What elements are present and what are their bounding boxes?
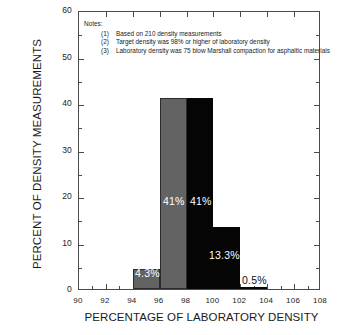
tick-x-top-94 — [133, 12, 134, 17]
tick-y-left-50 — [79, 59, 84, 60]
y-tick-label-60: 60 — [46, 5, 72, 15]
tick-y-left-40 — [79, 105, 84, 106]
tick-y-right-20 — [314, 198, 319, 199]
bar-label-98-100: 41% — [190, 195, 212, 207]
tick-y-left-minor-25 — [79, 175, 82, 176]
tick-y-left-30 — [79, 152, 84, 153]
x-tick-label-106: 106 — [278, 296, 308, 305]
tick-y-right-40 — [314, 105, 319, 106]
note-number-1: (1) — [101, 30, 116, 39]
x-tick-label-104: 104 — [251, 296, 281, 305]
y-tick-label-10: 10 — [46, 238, 72, 248]
y-tick-label-0: 0 — [46, 284, 72, 294]
tick-y-left-20 — [79, 198, 84, 199]
tick-x-bottom-104 — [267, 284, 268, 289]
note-text-1: Based on 210 density measurements — [116, 30, 222, 37]
tick-y-right-minor-15 — [316, 221, 319, 222]
x-tick-label-96: 96 — [144, 296, 174, 305]
bar-102-104 — [240, 287, 267, 289]
note-text-3: Laboratory density was 75 blow Marshall … — [116, 47, 330, 54]
bar-label-96-98: 41% — [163, 195, 185, 207]
tick-x-top-98 — [187, 12, 188, 17]
tick-y-right-50 — [314, 59, 319, 60]
x-tick-label-102: 102 — [224, 296, 254, 305]
note-text-2: Target density was 98% or higher of labo… — [116, 38, 270, 45]
y-tick-label-20: 20 — [46, 191, 72, 201]
tick-y-left-minor-5 — [79, 268, 82, 269]
y-axis-title: PERCENT OF DENSITY MEASUREMENTS — [31, 14, 43, 294]
note-item-1: (1)Based on 210 density measurements — [84, 30, 330, 39]
tick-y-left-minor-35 — [79, 128, 82, 129]
x-axis-title: PERCENTAGE OF LABORATORY DENSITY — [60, 311, 343, 323]
x-tick-label-90: 90 — [63, 296, 93, 305]
tick-y-right-minor-25 — [316, 175, 319, 176]
tick-y-left-minor-15 — [79, 221, 82, 222]
note-number-2: (2) — [101, 38, 116, 47]
x-tick-label-108: 108 — [305, 296, 335, 305]
tick-y-left-minor-55 — [79, 35, 82, 36]
tick-x-bottom-minor-107 — [308, 286, 309, 289]
bar-label-94-96: 4.3% — [135, 267, 160, 279]
note-item-2: (2)Target density was 98% or higher of l… — [84, 38, 330, 47]
histogram-figure: PERCENT OF DENSITY MEASUREMENTS 0 10 20 … — [0, 0, 343, 335]
tick-x-bottom-minor-93 — [119, 286, 120, 289]
tick-y-right-30 — [314, 152, 319, 153]
tick-x-bottom-minor-91 — [92, 286, 93, 289]
x-tick-label-92: 92 — [90, 296, 120, 305]
y-tick-label-50: 50 — [46, 52, 72, 62]
x-tick-label-94: 94 — [117, 296, 147, 305]
x-tick-label-100: 100 — [197, 296, 227, 305]
bar-label-102-104: 0.5% — [242, 274, 267, 286]
tick-y-right-minor-35 — [316, 128, 319, 129]
tick-x-top-102 — [240, 12, 241, 17]
tick-x-top-106 — [294, 12, 295, 17]
tick-x-top-104 — [267, 12, 268, 17]
y-tick-label-40: 40 — [46, 98, 72, 108]
tick-x-top-92 — [106, 12, 107, 17]
tick-x-bottom-minor-105 — [281, 286, 282, 289]
bar-96-98 — [160, 98, 187, 289]
tick-y-left-minor-45 — [79, 82, 82, 83]
y-tick-label-30: 30 — [46, 145, 72, 155]
note-number-3: (3) — [101, 47, 116, 56]
tick-x-bottom-106 — [294, 284, 295, 289]
x-tick-label-98: 98 — [171, 296, 201, 305]
note-item-3: (3)Laboratory density was 75 blow Marsha… — [84, 47, 330, 56]
tick-x-bottom-92 — [106, 284, 107, 289]
tick-y-right-minor-45 — [316, 82, 319, 83]
plot-area: 4.3% 41% 41% 13.3% 0.5% Notes: (1)Based … — [78, 11, 320, 290]
tick-x-top-100 — [213, 12, 214, 17]
tick-y-right-10 — [314, 245, 319, 246]
tick-x-top-96 — [160, 12, 161, 17]
tick-y-left-10 — [79, 245, 84, 246]
notes-block: Notes: (1)Based on 210 density measureme… — [84, 20, 330, 55]
bar-label-100-102: 13.3% — [209, 249, 240, 261]
tick-y-right-minor-5 — [316, 268, 319, 269]
notes-title: Notes: — [84, 20, 330, 29]
